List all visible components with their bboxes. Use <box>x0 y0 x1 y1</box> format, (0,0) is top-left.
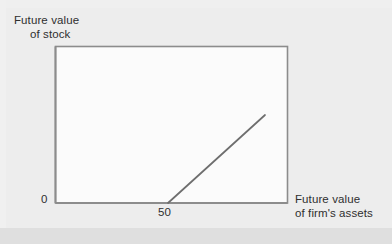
x-axis-label-line1: Future value <box>295 192 373 206</box>
y-axis-label-line2: of stock <box>14 27 79 41</box>
y-axis-label: Future value of stock <box>14 13 79 41</box>
x-axis-label: Future value of firm's assets <box>295 192 373 220</box>
y-axis-tick-zero: 0 <box>41 192 48 206</box>
x-axis-label-line2: of firm's assets <box>295 206 373 220</box>
x-axis-tick-fifty: 50 <box>158 205 171 219</box>
y-axis-label-line1: Future value <box>14 13 79 27</box>
plot-area-background <box>56 47 288 204</box>
figure-container: Future value of stock Future value of fi… <box>0 0 392 244</box>
